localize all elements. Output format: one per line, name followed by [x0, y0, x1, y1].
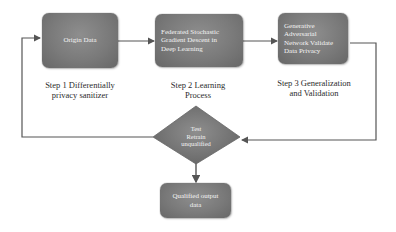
node-gan-validate: Generative Adversarial Network Validate … [278, 13, 348, 64]
node-fsgd-line3: Deep Learning [161, 45, 243, 54]
node-qualified-output: Qualified output data [160, 183, 231, 218]
node-gan-line4: Data Privacy [284, 47, 348, 56]
node-fsgd-line2: Gradient Descent in [161, 36, 243, 45]
step1-label: Step 1 Differentially privacy sanitizer [30, 80, 130, 100]
step3-label: Step 3 Generalization and Validation [262, 78, 366, 98]
step2-label: Step 2 Learning Process [148, 80, 248, 100]
decision-text: Test Retrain unqualified [166, 125, 226, 148]
node-origin-data: Origin Data [42, 13, 118, 68]
decision-line2: Retrain [166, 133, 226, 141]
step2-line2: Process [148, 90, 248, 100]
node-gan-line1: Generative [284, 22, 348, 31]
node-federated-sgd: Federated Stochastic Gradient Descent in… [155, 14, 243, 67]
node-origin-data-text: Origin Data [42, 36, 118, 45]
step2-line1: Step 2 Learning [148, 80, 248, 90]
decision-line1: Test [166, 125, 226, 133]
node-output-line1: Qualified output [160, 192, 231, 201]
step3-line1: Step 3 Generalization [262, 78, 366, 88]
step3-line2: and Validation [262, 88, 366, 98]
node-gan-line3: Network Validate [284, 39, 348, 48]
decision-line3: unqualified [166, 140, 226, 148]
node-fsgd-line1: Federated Stochastic [161, 28, 243, 37]
node-output-line2: data [160, 201, 231, 210]
step1-line2: privacy sanitizer [30, 90, 130, 100]
step1-line1: Step 1 Differentially [30, 80, 130, 90]
node-gan-line2: Adversarial [284, 30, 348, 39]
